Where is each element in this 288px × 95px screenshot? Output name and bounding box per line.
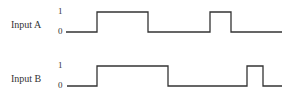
waveform-input-b <box>67 66 282 86</box>
waveform-input-a <box>66 12 282 32</box>
timing-waveforms <box>0 0 288 95</box>
